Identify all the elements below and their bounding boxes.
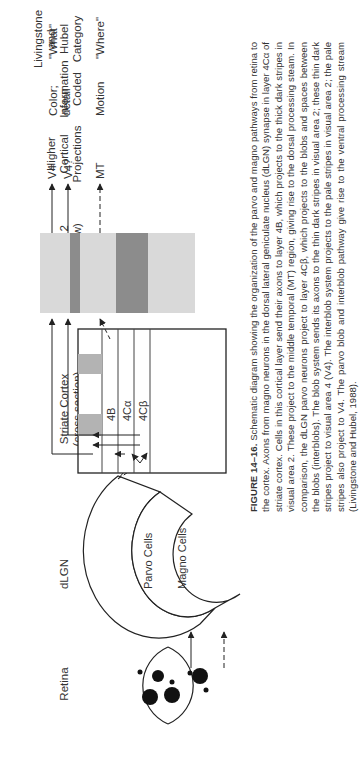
info-color: Color;: [47, 85, 60, 116]
blob-upper: [78, 354, 102, 374]
dlgn-crescents: [83, 476, 240, 638]
info-motion: Motion: [94, 81, 107, 116]
caption-label: FIGURE 14–16.: [248, 444, 259, 512]
projection-mt: MT: [94, 162, 107, 179]
retina-icon: [138, 647, 209, 724]
info-detail: detail: [60, 85, 73, 116]
striate-cortex-box: [78, 329, 226, 473]
projection-v4q: V4?: [62, 159, 75, 179]
figure-caption: FIGURE 14–16. Schematic diagram showing …: [248, 42, 360, 512]
caption-text: Schematic diagram showing the organizati…: [248, 42, 358, 512]
category-what: "What": [47, 24, 60, 59]
magno-cells-label: Magno Cells: [176, 527, 188, 589]
info-color-detail: Color; detail: [47, 85, 73, 116]
parvo-cells-label: Parvo Cells: [142, 532, 154, 589]
layer-4cb-label: 4Cβ: [137, 401, 149, 421]
thick-dark-stripe: [116, 233, 148, 313]
thin-dark-stripe: [70, 233, 80, 313]
layer-4ca-label: 4Cα: [121, 400, 133, 421]
blob-lower: [78, 414, 102, 436]
category-where: "Where": [94, 17, 107, 59]
projection-v4: V4: [46, 165, 59, 179]
layer-4b-label: 4B: [105, 408, 117, 421]
